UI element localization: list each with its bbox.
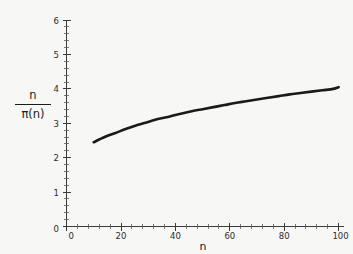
data-curve-line [94,87,339,142]
x-axis-title: n [200,240,207,253]
x-tick-label-60: 60 [224,231,235,241]
y-tick-label-1: 1 [54,188,59,198]
y-tick-label-6: 6 [54,16,59,26]
y-tick-label-0: 0 [54,224,59,234]
x-tick-label-40: 40 [170,231,181,241]
chart-screenshot: 6 5 4 3 2 1 0 0 20 40 60 80 100 n n π(n) [0,0,353,254]
plot-area: 6 5 4 3 2 1 0 0 20 40 60 80 100 n n π(n) [0,0,353,254]
x-tick-label-80: 80 [279,231,290,241]
x-tick-label-100: 100 [332,231,348,241]
y-axis-title-numerator: n [29,88,36,102]
y-tick-label-3: 3 [54,119,59,129]
x-tick-label-0: 0 [69,231,74,241]
y-tick-label-2: 2 [54,153,59,163]
y-axis-title: n π(n) [15,88,51,121]
y-tick-label-5: 5 [54,50,59,60]
y-tick-label-4: 4 [54,84,59,94]
x-tick-label-20: 20 [116,231,127,241]
y-axis-title-denominator: π(n) [21,107,44,121]
